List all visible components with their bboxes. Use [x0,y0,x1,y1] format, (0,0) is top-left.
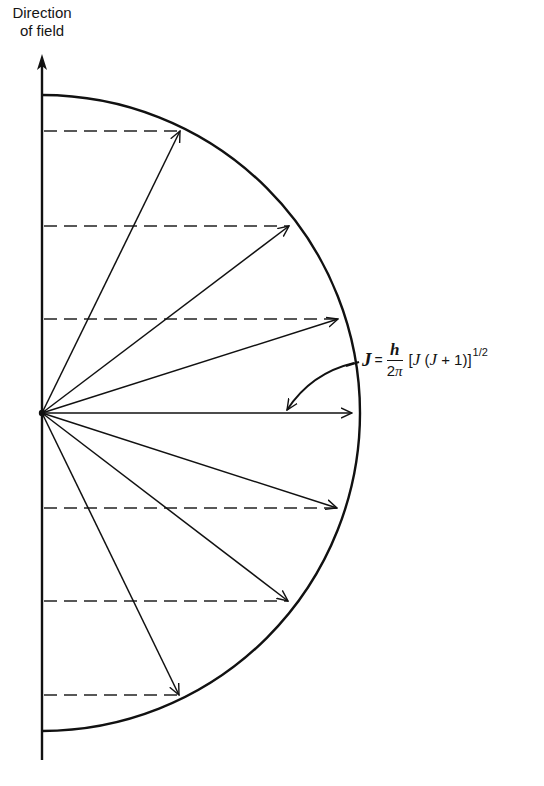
formula-numerator: h [387,341,402,358]
formula-lhs: J [362,349,372,371]
vector-m-3 [42,413,179,695]
vector-m3 [42,131,180,413]
vector-m1 [42,319,338,413]
space-quantization-diagram [0,0,544,786]
formula-exponent: 1/2 [473,346,488,358]
vector-m-2 [42,413,288,601]
formula-denominator: 2π [387,363,403,379]
origin-point [39,410,45,416]
angular-momentum-vectors [42,131,352,695]
formula-fraction: h 2π [387,341,403,379]
angular-momentum-formula: J = h 2π [J (J + 1)] 1/2 [362,341,488,379]
annotation-arrow [287,362,359,410]
vector-m-1 [42,413,337,508]
formula-equals: = [375,352,383,368]
fraction-bar [387,360,403,361]
formula-bracket-term: [J (J + 1)] [409,350,472,370]
